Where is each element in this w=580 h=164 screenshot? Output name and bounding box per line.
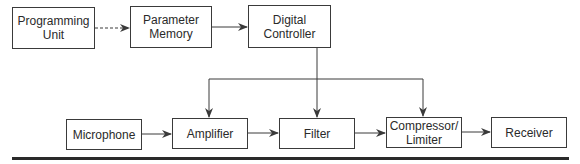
block-compressor-limiter: Compressor/ Limiter (386, 117, 462, 148)
block-diagram: Programming Unit Parameter Memory Digita… (0, 0, 580, 164)
block-digital-controller: Digital Controller (248, 5, 331, 48)
block-parameter-memory: Parameter Memory (130, 6, 212, 48)
bottom-rule-divider (12, 157, 569, 160)
block-amplifier: Amplifier (172, 118, 248, 149)
block-filter: Filter (279, 118, 355, 149)
block-microphone: Microphone (66, 119, 142, 150)
block-programming-unit: Programming Unit (12, 7, 95, 49)
block-receiver: Receiver (491, 117, 567, 148)
